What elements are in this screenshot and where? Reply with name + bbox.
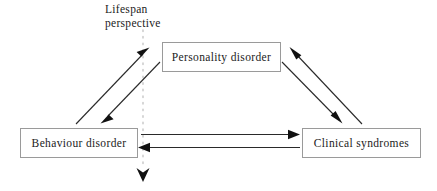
personality-to-behaviour-edge: [101, 62, 161, 124]
personality-to-clinical-line: [282, 62, 335, 116]
lifespan-down-arrowhead-icon: [137, 168, 150, 182]
behaviour-to-personality-edge: [76, 48, 150, 125]
behaviour-to-clinical-edge: [141, 130, 300, 139]
personality-to-behaviour-line: [108, 62, 160, 116]
node-behaviour-disorder: Behaviour disorder: [20, 128, 138, 158]
node-clinical-syndromes-label: Clinical syndromes: [314, 137, 409, 149]
lifespan-label-line-1: Lifespan: [105, 3, 215, 17]
clinical-to-personality-line: [296, 54, 362, 124]
lifespan-label-line-2: perspective: [105, 17, 215, 31]
diagram-connectors-layer: [0, 0, 437, 191]
behaviour-to-clinical-arrowhead-icon: [288, 130, 300, 139]
behaviour-to-personality-arrowhead-icon: [137, 48, 150, 57]
node-clinical-syndromes: Clinical syndromes: [302, 128, 421, 158]
diagram-canvas: Lifespan perspective Personality disorde…: [0, 0, 437, 191]
clinical-to-behaviour-edge: [138, 143, 300, 152]
clinical-to-behaviour-arrowhead-icon: [138, 143, 150, 152]
behaviour-to-personality-line: [76, 54, 143, 124]
node-behaviour-disorder-label: Behaviour disorder: [32, 137, 127, 149]
personality-to-behaviour-arrowhead-icon: [101, 115, 114, 124]
clinical-to-personality-edge: [290, 47, 363, 124]
node-personality-disorder: Personality disorder: [162, 42, 281, 72]
node-personality-disorder-label: Personality disorder: [172, 51, 271, 63]
lifespan-perspective-label: Lifespan perspective: [105, 3, 215, 30]
